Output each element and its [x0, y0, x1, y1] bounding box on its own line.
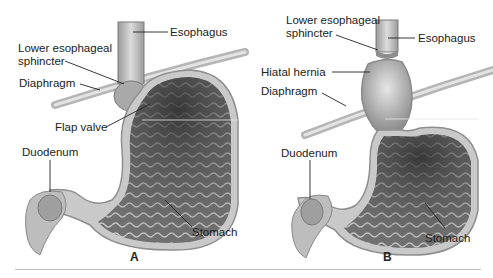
label-stomach-a: Stomach: [192, 226, 237, 239]
label-esophagus-b: Esophagus: [418, 32, 476, 45]
label-hiatal-hernia: Hiatal hernia: [261, 66, 326, 79]
label-esophagus-a: Esophagus: [170, 26, 228, 39]
label-les-a-line2: sphincter: [18, 55, 65, 68]
label-flap-valve: Flap valve: [55, 121, 107, 134]
label-les-b-line2: sphincter: [286, 27, 333, 40]
label-les-b-line1: Lower esophageal: [286, 14, 380, 27]
panel-b-illustration: [292, 20, 493, 258]
label-duodenum-b: Duodenum: [281, 147, 337, 160]
hiatal-hernia-sac: [362, 59, 412, 132]
bottom-divider: [15, 269, 481, 270]
label-duodenum-a: Duodenum: [22, 146, 78, 159]
panel-letter-a: A: [130, 250, 139, 264]
label-les-a-line1: Lower esophageal: [18, 42, 112, 55]
esophagus-a: [118, 22, 144, 84]
anatomy-figure: Esophagus Lower esophageal sphincter Dia…: [0, 0, 493, 278]
label-diaphragm-b: Diaphragm: [261, 85, 317, 98]
panel-letter-b: B: [383, 250, 392, 264]
label-diaphragm-a: Diaphragm: [19, 77, 75, 90]
label-stomach-b: Stomach: [425, 232, 470, 245]
